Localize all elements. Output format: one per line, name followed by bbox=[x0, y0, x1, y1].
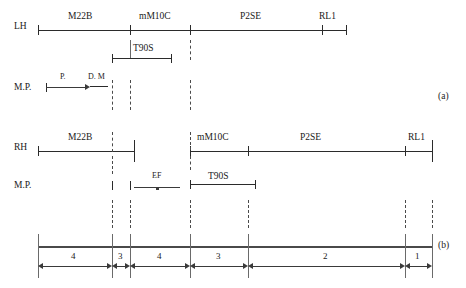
mp-top-guide-190b bbox=[190, 80, 191, 110]
rh-tick-m22b-end bbox=[134, 140, 135, 162]
scale-dim-5 bbox=[405, 263, 432, 270]
panel-label-b: (b) bbox=[438, 241, 449, 251]
rh-segment-label-p2se: P2SE bbox=[300, 133, 321, 143]
scale-gridline-3 bbox=[190, 234, 191, 278]
rh-guide-112b bbox=[112, 156, 113, 174]
mp-bottom-marker-dot-ef bbox=[156, 187, 159, 190]
row-label-mp-top: M.P. bbox=[14, 83, 31, 93]
mp-top-span-label-t90s: T90S bbox=[133, 44, 154, 54]
rh-segment-label-rl1: RL1 bbox=[408, 133, 425, 143]
mp-bottom-guide-130 bbox=[130, 200, 131, 228]
row-label-mp-bottom: M.P. bbox=[14, 181, 31, 191]
rh-segment-label-m22b: M22B bbox=[68, 133, 92, 143]
scale-gridline-1 bbox=[112, 234, 113, 278]
rh-guide-112 bbox=[112, 132, 113, 152]
row-label-lh: LH bbox=[14, 22, 27, 32]
mp-bottom-guide-112 bbox=[112, 200, 113, 228]
scale-value-3: 3 bbox=[216, 252, 221, 261]
mp-bottom-span-label-t90s: T90S bbox=[208, 172, 229, 182]
rh-guide-190 bbox=[190, 132, 191, 150]
mp-top-marker-bar-dm bbox=[90, 86, 108, 87]
scale-value-2: 4 bbox=[157, 252, 162, 261]
scale-gridline-5 bbox=[405, 234, 406, 278]
mp-top-arrow-shaft bbox=[46, 87, 86, 88]
scale-gridline-2 bbox=[130, 234, 131, 278]
scale-value-4: 2 bbox=[323, 252, 328, 261]
rh-tick-start bbox=[38, 146, 39, 156]
lh-tick-mm10c-end bbox=[190, 25, 191, 35]
mp-top-guide-112 bbox=[112, 80, 113, 110]
scale-dim-0 bbox=[38, 263, 112, 270]
rh-segment-label-mm10c: mM10C bbox=[197, 133, 229, 143]
mp-top-span-bar bbox=[112, 58, 172, 59]
mp-top-guide-190 bbox=[190, 40, 191, 60]
scale-value-1: 3 bbox=[118, 252, 123, 261]
lh-tick-start bbox=[38, 25, 39, 35]
scale-dim-2-shaft bbox=[133, 266, 187, 267]
scale-value-5: 1 bbox=[415, 252, 420, 261]
mp-bottom-tick-second bbox=[130, 181, 131, 190]
mp-bottom-guide-190 bbox=[190, 200, 191, 228]
lh-segment-label-mm10c: mM10C bbox=[139, 12, 171, 22]
scale-dim-5-arrow-right bbox=[427, 263, 432, 269]
mp-bottom-guide-432 bbox=[432, 200, 433, 228]
rh-baseline-right bbox=[190, 151, 432, 152]
mp-bottom-marker-label-ef: EF bbox=[152, 172, 161, 180]
scale-dim-2 bbox=[130, 263, 190, 270]
lh-baseline bbox=[38, 30, 346, 31]
mp-bottom-guide-248 bbox=[248, 200, 249, 228]
lh-segment-label-m22b: M22B bbox=[68, 12, 92, 22]
mp-top-span-stem bbox=[130, 40, 131, 58]
mp-bottom-marker-bar-ef bbox=[134, 187, 180, 188]
mp-top-marker-label-p: P. bbox=[60, 73, 66, 81]
scale-value-0: 4 bbox=[71, 252, 76, 261]
rh-tick-mm10c-end bbox=[248, 146, 249, 156]
scale-dim-3 bbox=[190, 263, 248, 270]
scale-gridline-6 bbox=[432, 234, 433, 278]
scale-gridline-0 bbox=[38, 234, 39, 278]
mp-top-arrow-p bbox=[46, 84, 90, 91]
lh-tick-end bbox=[346, 25, 347, 35]
scale-dim-1 bbox=[112, 263, 130, 270]
scale-bar bbox=[38, 246, 432, 248]
mp-bottom-span-cap-left bbox=[190, 180, 191, 189]
lh-tick-p2se-end bbox=[322, 25, 323, 35]
scale-dim-5-shaft bbox=[408, 266, 429, 267]
chromosome-map-diagram: LH M22B mM10C P2SE RL1 T90S M.P. P. D. M… bbox=[0, 0, 466, 288]
rh-guide-190b bbox=[190, 156, 191, 170]
scale-dim-3-shaft bbox=[193, 266, 245, 267]
rh-tick-p2se-end bbox=[405, 146, 406, 156]
scale-dim-0-shaft bbox=[41, 266, 109, 267]
mp-bottom-tick-start bbox=[112, 181, 113, 190]
lh-tick-m22b-end bbox=[130, 25, 131, 35]
rh-tick-end bbox=[432, 140, 433, 162]
row-label-rh: RH bbox=[14, 143, 27, 153]
scale-dim-4 bbox=[248, 263, 405, 270]
mp-bottom-span-cap-right bbox=[255, 180, 256, 189]
mp-top-span-cap-left bbox=[112, 54, 113, 63]
lh-segment-label-rl1: RL1 bbox=[319, 12, 336, 22]
mp-bottom-span-bar bbox=[190, 184, 256, 185]
scale-gridline-4 bbox=[248, 234, 249, 278]
mp-bottom-guide-405 bbox=[405, 200, 406, 228]
mp-top-span-cap-right bbox=[171, 54, 172, 63]
lh-segment-label-p2se: P2SE bbox=[240, 12, 261, 22]
scale-dim-4-shaft bbox=[251, 266, 402, 267]
mp-top-guide-130 bbox=[130, 80, 131, 110]
mp-top-marker-label-dm: D. M bbox=[88, 73, 105, 81]
rh-baseline-left bbox=[38, 151, 134, 152]
panel-label-a: (a) bbox=[438, 92, 449, 102]
mp-top-arrow-head bbox=[85, 84, 90, 90]
